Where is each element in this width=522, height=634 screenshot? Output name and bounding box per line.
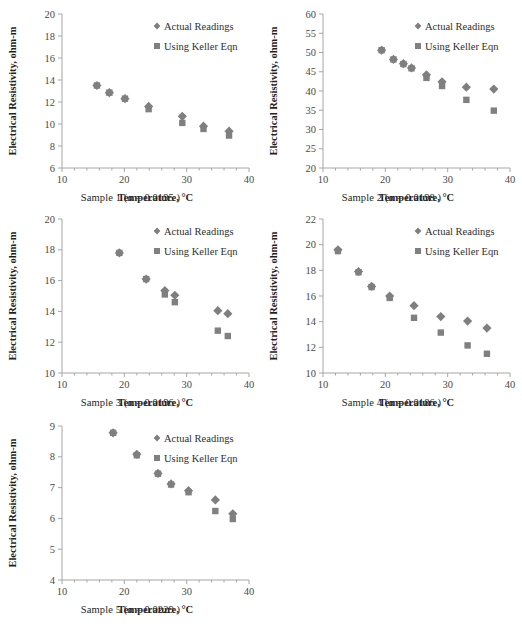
panel-caption-sample-5: Sample 5 (α = 0.0229 ) xyxy=(0,604,261,615)
x-tick-label: 20 xyxy=(119,379,130,390)
data-point-actual xyxy=(184,486,193,495)
chart-panel-sample-3: 10121416182010203040Electrical Resistivi… xyxy=(0,205,261,412)
y-tick-label: 9 xyxy=(50,421,55,432)
y-tick-label: 12 xyxy=(306,342,317,353)
y-axis-title: Electrical Resistivity, ohm-m xyxy=(7,26,18,155)
panel-caption-sample-4: Sample 4 (α = 0.0186 ) xyxy=(261,397,522,408)
legend-marker-square xyxy=(154,43,160,49)
y-tick-label: 12 xyxy=(45,97,56,108)
x-tick-label: 10 xyxy=(57,174,68,185)
legend-marker-diamond xyxy=(415,228,422,235)
data-point-actual xyxy=(224,127,233,136)
data-point-actual xyxy=(437,77,446,86)
y-tick-label: 50 xyxy=(306,47,317,58)
data-point-actual xyxy=(422,70,431,79)
y-axis-title: Electrical Resistivity, ohm-m xyxy=(7,231,18,360)
data-point-actual xyxy=(144,102,153,111)
y-tick-label: 10 xyxy=(45,368,56,379)
legend-label: Using Keller Eqn xyxy=(164,246,238,257)
y-tick-label: 14 xyxy=(45,306,56,317)
panel-caption-sample-2: Sample 2 (α = 0.0198 ) xyxy=(261,192,522,203)
data-point-actual xyxy=(132,450,141,459)
data-point-actual xyxy=(228,509,237,518)
y-tick-label: 60 xyxy=(306,9,317,20)
panel-caption-sample-1: Sample 1 (α = 0.0195 ) xyxy=(0,192,261,203)
y-tick-label: 45 xyxy=(306,66,317,77)
legend-label: Actual Readings xyxy=(164,433,234,444)
y-tick-label: 10 xyxy=(306,368,317,379)
legend-label: Actual Readings xyxy=(164,226,234,237)
y-tick-label: 20 xyxy=(306,239,317,250)
y-tick-label: 30 xyxy=(306,124,317,135)
x-tick-label: 20 xyxy=(380,379,391,390)
y-tick-label: 8 xyxy=(50,141,55,152)
plot-area-sample-1: 6810121416182010203040Electrical Resisti… xyxy=(0,0,261,207)
data-point-actual xyxy=(223,309,232,318)
x-tick-label: 40 xyxy=(244,174,255,185)
y-tick-label: 14 xyxy=(45,75,56,86)
legend-label: Using Keller Eqn xyxy=(164,453,238,464)
data-point-actual xyxy=(153,469,162,478)
chart-panel-sample-4: 1012141618202210203040Electrical Resisti… xyxy=(261,205,522,412)
x-tick-label: 40 xyxy=(505,379,516,390)
x-tick-label: 20 xyxy=(119,174,130,185)
legend-marker-diamond xyxy=(154,23,161,30)
data-point-actual xyxy=(462,83,471,92)
figure-multi-panel-scatter: 6810121416182010203040Electrical Resisti… xyxy=(0,0,522,634)
x-tick-label: 30 xyxy=(181,379,192,390)
data-point-actual xyxy=(115,248,124,257)
y-tick-label: 18 xyxy=(306,265,317,276)
y-tick-label: 20 xyxy=(45,214,56,225)
data-point-actual xyxy=(377,46,386,55)
data-point-actual xyxy=(436,312,445,321)
data-point-actual xyxy=(105,88,114,97)
chart-panel-sample-5: 45678910203040Electrical Resistivity, oh… xyxy=(0,412,261,619)
legend-label: Actual Readings xyxy=(164,21,234,32)
x-tick-label: 10 xyxy=(57,586,68,597)
y-tick-label: 7 xyxy=(50,482,55,493)
legend-marker-square xyxy=(154,248,160,254)
x-tick-label: 30 xyxy=(442,379,453,390)
x-tick-label: 40 xyxy=(244,379,255,390)
y-tick-label: 16 xyxy=(45,275,56,286)
panel-caption-sample-3: Sample 3 (α = 0.0196 ) xyxy=(0,397,261,408)
plot-area-sample-5: 45678910203040Electrical Resistivity, oh… xyxy=(0,412,261,619)
data-point-actual xyxy=(409,301,418,310)
data-point-actual xyxy=(211,495,220,504)
data-point-actual xyxy=(109,428,118,437)
data-point-actual xyxy=(120,94,129,103)
data-point-actual xyxy=(213,306,222,315)
data-point-actual xyxy=(92,81,101,90)
plot-area-sample-2: 20253035404550556010203040Electrical Res… xyxy=(261,0,522,207)
data-point-keller xyxy=(172,299,178,305)
y-tick-label: 6 xyxy=(50,163,55,174)
y-tick-label: 20 xyxy=(306,163,317,174)
data-point-keller xyxy=(215,327,221,333)
data-point-actual xyxy=(489,84,498,93)
legend-marker-diamond xyxy=(154,435,161,442)
y-tick-label: 16 xyxy=(45,53,56,64)
data-point-keller xyxy=(484,351,490,357)
data-point-actual xyxy=(166,479,175,488)
y-tick-label: 40 xyxy=(306,86,317,97)
data-point-actual xyxy=(407,63,416,72)
data-point-actual xyxy=(399,59,408,68)
data-point-actual xyxy=(160,286,169,295)
x-tick-label: 40 xyxy=(505,174,516,185)
x-tick-label: 10 xyxy=(318,379,329,390)
y-axis-title: Electrical Resistivity, ohm-m xyxy=(268,26,279,155)
legend-marker-diamond xyxy=(415,23,422,30)
y-tick-label: 14 xyxy=(306,316,317,327)
data-point-keller xyxy=(464,342,470,348)
legend-label: Using Keller Eqn xyxy=(425,41,499,52)
x-tick-label: 40 xyxy=(244,586,255,597)
data-point-actual xyxy=(389,55,398,64)
chart-panel-sample-2: 20253035404550556010203040Electrical Res… xyxy=(261,0,522,207)
x-tick-label: 10 xyxy=(318,174,329,185)
data-point-keller xyxy=(225,333,231,339)
y-tick-label: 16 xyxy=(306,291,317,302)
x-tick-label: 30 xyxy=(442,174,453,185)
data-point-actual xyxy=(178,112,187,121)
data-point-actual xyxy=(367,282,376,291)
y-tick-label: 22 xyxy=(306,214,317,225)
